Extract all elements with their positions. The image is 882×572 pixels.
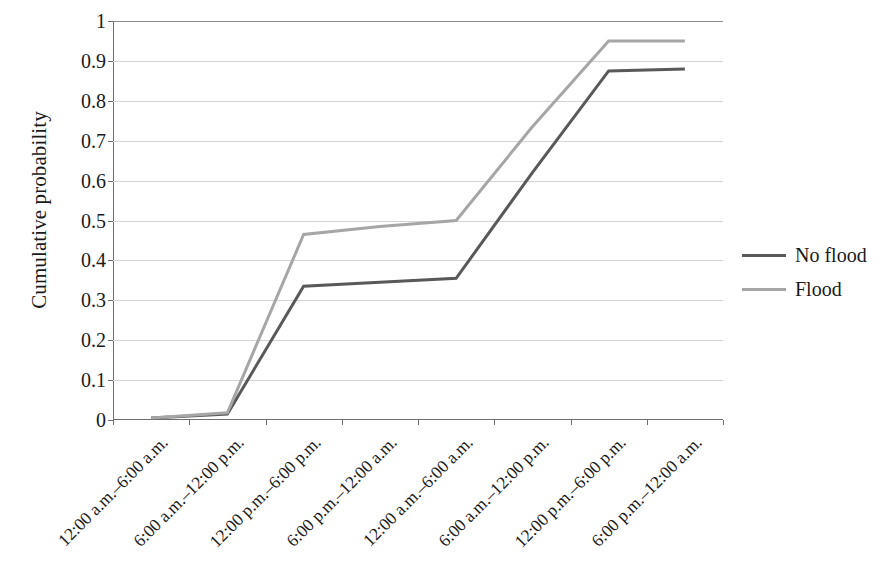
y-tick-label: 0.8: [52, 91, 106, 111]
x-tick-label: 6:00 p.m.–12:00 a.m.: [175, 433, 401, 572]
x-tick-label: 12:00 p.m.–6:00 p.m.: [99, 433, 325, 572]
series-line: [151, 69, 685, 418]
x-tick-mark: [342, 420, 343, 425]
legend-item[interactable]: Flood: [742, 272, 882, 306]
x-tick-label: 6:00 p.m.–12:00 a.m.: [480, 433, 706, 572]
x-tick-label: 12:00 p.m.–6:00 p.m.: [404, 433, 630, 572]
x-tick-label: 12:00 a.m.–6:00 a.m.: [251, 433, 477, 572]
y-tick-label: 0.4: [52, 250, 106, 270]
x-tick-mark: [723, 420, 724, 425]
x-tick-mark: [494, 420, 495, 425]
legend-label: No flood: [795, 245, 867, 265]
x-tick-label: 6:00 a.m.–12:00 p.m.: [23, 433, 249, 572]
y-tick-label: 0.7: [52, 131, 106, 151]
x-tick-mark: [418, 420, 419, 425]
y-tick-label: 0.6: [52, 171, 106, 191]
x-tick-mark: [189, 420, 190, 425]
y-tick-label: 0.5: [52, 211, 106, 231]
x-tick-mark: [266, 420, 267, 425]
x-tick-mark: [113, 420, 114, 425]
y-tick-label: 0.3: [52, 290, 106, 310]
cumulative-probability-chart: Cumulative probability 00.10.20.30.40.50…: [0, 0, 882, 572]
legend-color-swatch: [742, 254, 786, 257]
y-tick-label: 0.9: [52, 51, 106, 71]
legend-label: Flood: [795, 279, 842, 299]
chart-legend: No floodFlood: [742, 238, 882, 306]
y-axis-tick-labels: 00.10.20.30.40.50.60.70.80.91: [50, 0, 106, 430]
legend-color-swatch: [742, 288, 786, 291]
y-tick-label: 0.1: [52, 370, 106, 390]
plot-area: [113, 21, 723, 420]
series-line: [151, 41, 685, 418]
y-tick-label: 1: [52, 11, 106, 31]
x-tick-mark: [647, 420, 648, 425]
y-tick-label: 0: [52, 410, 106, 430]
series-lines: [113, 21, 723, 420]
x-tick-label: 6:00 a.m.–12:00 p.m.: [328, 433, 554, 572]
y-tick-label: 0.2: [52, 330, 106, 350]
legend-item[interactable]: No flood: [742, 238, 882, 272]
x-tick-mark: [571, 420, 572, 425]
x-tick-label: 12:00 a.m.–6:00 a.m.: [0, 433, 172, 572]
